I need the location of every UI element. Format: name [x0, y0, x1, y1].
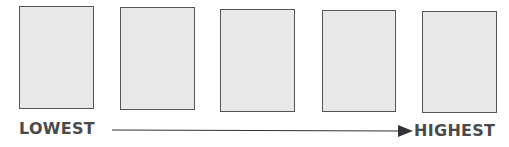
lowest-label: LOWEST	[19, 121, 95, 137]
box-4	[322, 10, 396, 112]
highest-label: HIGHEST	[414, 123, 495, 139]
box-5	[422, 11, 497, 113]
arrow-right-icon	[110, 122, 415, 138]
box-1	[19, 6, 94, 109]
box-2	[120, 7, 195, 110]
box-3	[220, 9, 295, 112]
